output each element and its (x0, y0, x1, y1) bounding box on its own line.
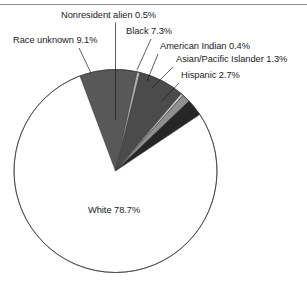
pie-chart-figure: Race unknown 9.1%Nonresident alien 0.5%B… (0, 0, 307, 286)
slice-label-white: White 78.7% (88, 205, 140, 216)
slice-label-asian-pacific-islander: Asian/Pacific Islander 1.3% (176, 54, 287, 65)
slice-label-black: Black 7.3% (126, 26, 172, 37)
slice-label-american-indian: American Indian 0.4% (160, 41, 250, 52)
slice-label-hispanic: Hispanic 2.7% (181, 70, 240, 81)
slice-label-race-unknown: Race unknown 9.1% (13, 35, 97, 46)
slice-label-nonresident-alien: Nonresident alien 0.5% (61, 10, 156, 21)
leader-line-race-unknown (79, 48, 91, 73)
leader-line-black (137, 39, 151, 70)
